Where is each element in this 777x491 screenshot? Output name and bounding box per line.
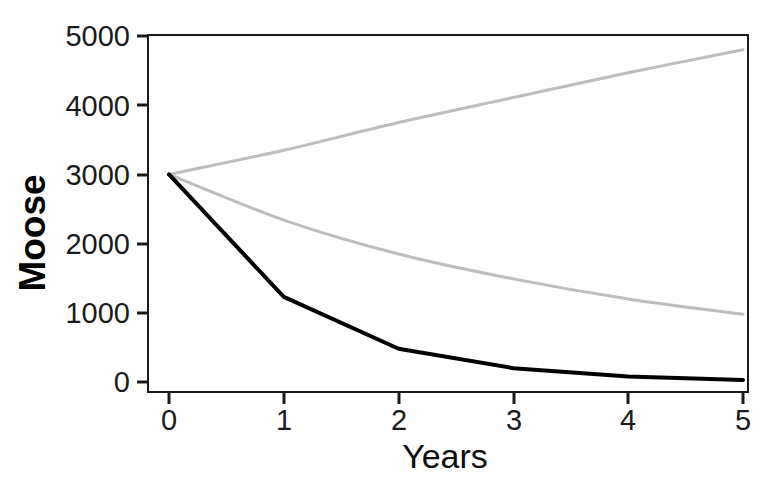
series-line-increasing bbox=[169, 50, 743, 175]
y-axis-title: Moose bbox=[12, 153, 54, 313]
x-tick-label-3: 3 bbox=[484, 406, 544, 435]
y-tick-label-0: 0 bbox=[10, 368, 130, 397]
x-axis-ticks bbox=[169, 392, 743, 404]
y-tick-label-4000: 4000 bbox=[10, 92, 130, 121]
x-axis-title: Years bbox=[0, 437, 777, 476]
moose-population-chart: 5000 4000 3000 2000 1000 0 0 1 2 3 4 5 M… bbox=[0, 0, 777, 491]
series-line-declining-black bbox=[169, 174, 743, 380]
x-tick-label-5: 5 bbox=[713, 406, 773, 435]
x-tick-label-4: 4 bbox=[598, 406, 658, 435]
y-axis-ticks bbox=[137, 36, 148, 382]
data-series-layer bbox=[169, 50, 743, 380]
x-tick-label-0: 0 bbox=[139, 406, 199, 435]
series-line-declining-gray bbox=[169, 174, 743, 314]
x-tick-label-2: 2 bbox=[369, 406, 429, 435]
y-tick-label-5000: 5000 bbox=[10, 22, 130, 51]
x-tick-label-1: 1 bbox=[254, 406, 314, 435]
plot-frame bbox=[148, 35, 748, 392]
